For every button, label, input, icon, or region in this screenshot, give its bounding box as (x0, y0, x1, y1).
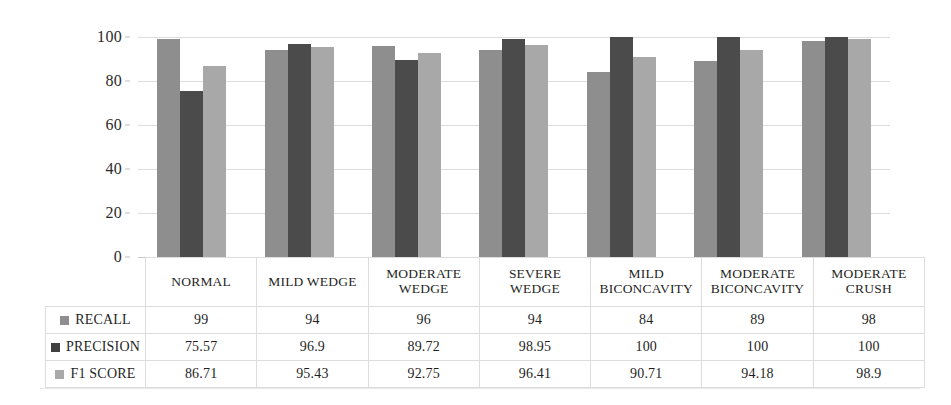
table-row: RECALL99949694848998 (46, 307, 925, 334)
y-axis-tick-mark (125, 125, 130, 126)
table-cell: 89.72 (368, 334, 479, 361)
table-cell: 86.71 (146, 361, 257, 388)
table-cell: 90.71 (591, 361, 702, 388)
y-axis-tick-mark (125, 37, 130, 38)
table-cell: 98.9 (813, 361, 924, 388)
table-cell: 100 (702, 334, 813, 361)
table-cell: 96.9 (257, 334, 368, 361)
y-axis-tick-mark (125, 81, 130, 82)
bar-group (245, 37, 352, 257)
y-axis-tick-mark (125, 213, 130, 214)
plot-area (138, 37, 890, 257)
bar-group (568, 37, 675, 257)
bar (717, 37, 740, 257)
y-axis: 100806040200 (60, 37, 130, 257)
table-cell: 95.43 (257, 361, 368, 388)
table-column-header: MILD WEDGE (257, 258, 368, 307)
bar (502, 39, 525, 257)
bar (694, 61, 717, 257)
bar (265, 50, 288, 257)
y-axis-tick-label: 60 (105, 117, 122, 133)
bar (525, 45, 548, 257)
bar (157, 39, 180, 257)
table-cell: 84 (591, 307, 702, 334)
bar (848, 39, 871, 257)
legend-label: PRECISION (66, 339, 140, 354)
table-corner-cell (46, 258, 146, 307)
legend-item-recall: RECALL (46, 307, 146, 334)
table-header: NORMALMILD WEDGEMODERATE WEDGESEVERE WED… (46, 258, 925, 307)
table-cell: 94 (479, 307, 590, 334)
table-header-row: NORMALMILD WEDGEMODERATE WEDGESEVERE WED… (46, 258, 925, 307)
bar (418, 53, 441, 257)
legend-label: RECALL (75, 312, 131, 327)
table-cell: 98 (813, 307, 924, 334)
page-divider-line (40, 388, 920, 389)
table-cell: 92.75 (368, 361, 479, 388)
table-cell: 89 (702, 307, 813, 334)
bar-chart-figure: 100806040200 NORMALMILD WEDGEMODERATE WE… (0, 0, 951, 405)
legend-swatch-icon (51, 343, 60, 352)
y-axis-tick-label: 100 (97, 29, 122, 45)
y-axis-tick-label: 80 (105, 73, 122, 89)
bar (633, 57, 656, 257)
bar (180, 91, 203, 257)
table-cell: 99 (146, 307, 257, 334)
table-cell: 98.95 (479, 334, 590, 361)
bar-group (353, 37, 460, 257)
table-body: RECALL99949694848998PRECISION75.5796.989… (46, 307, 925, 388)
table-column-header: MODERATE BICONCAVITY (702, 258, 813, 307)
bar (372, 46, 395, 257)
table-cell: 100 (591, 334, 702, 361)
bar (479, 50, 502, 257)
bars-layer (138, 37, 890, 257)
table-cell: 94.18 (702, 361, 813, 388)
bar (825, 37, 848, 257)
bar (587, 72, 610, 257)
y-axis-tick-mark (125, 169, 130, 170)
table-column-header: MILD BICONCAVITY (591, 258, 702, 307)
legend-item-precision: PRECISION (46, 334, 146, 361)
legend-swatch-icon (60, 316, 69, 325)
bar (740, 50, 763, 257)
y-axis-tick-label: 40 (105, 161, 122, 177)
table-cell: 96.41 (479, 361, 590, 388)
bar (610, 37, 633, 257)
bar (311, 47, 334, 257)
legend-label: F1 SCORE (70, 366, 135, 381)
table-cell: 96 (368, 307, 479, 334)
bar (203, 66, 226, 257)
y-axis-tick-label: 20 (105, 205, 122, 221)
bar (802, 41, 825, 257)
table-row: F1 SCORE86.7195.4392.7596.4190.7194.1898… (46, 361, 925, 388)
legend-item-f1-score: F1 SCORE (46, 361, 146, 388)
table-column-header: SEVERE WEDGE (479, 258, 590, 307)
table-column-header: NORMAL (146, 258, 257, 307)
table-cell: 75.57 (146, 334, 257, 361)
bar (288, 44, 311, 257)
chart-data-table: NORMALMILD WEDGEMODERATE WEDGESEVERE WED… (45, 257, 925, 388)
table-cell: 94 (257, 307, 368, 334)
table-column-header: MODERATE CRUSH (813, 258, 924, 307)
table-row: PRECISION75.5796.989.7298.95100100100 (46, 334, 925, 361)
bar-group (783, 37, 890, 257)
table-column-header: MODERATE WEDGE (368, 258, 479, 307)
bar-group (460, 37, 567, 257)
bar-group (138, 37, 245, 257)
bar (395, 60, 418, 257)
legend-swatch-icon (55, 370, 64, 379)
table-cell: 100 (813, 334, 924, 361)
bar-group (675, 37, 782, 257)
